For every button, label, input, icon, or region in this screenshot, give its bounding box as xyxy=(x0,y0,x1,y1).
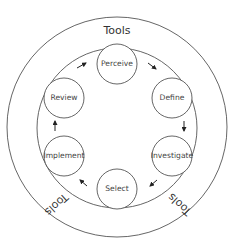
node-label: Review xyxy=(50,93,77,102)
node-select: Select xyxy=(97,169,137,209)
node-label: Define xyxy=(160,93,185,102)
tools-label: Tools xyxy=(42,190,72,219)
cycle-diagram: ToolsToolsTools PerceiveDefineInvestigat… xyxy=(0,0,236,250)
arrow-review-to-perceive-icon xyxy=(77,63,86,68)
node-label: Implement xyxy=(43,151,84,160)
node-define: Define xyxy=(152,78,192,118)
node-review: Review xyxy=(44,78,84,118)
node-label: Investigate xyxy=(151,151,194,160)
tools-label: Tools xyxy=(102,24,130,37)
arrow-perceive-to-define-icon xyxy=(148,63,156,69)
node-perceive: Perceive xyxy=(97,44,137,84)
tools-label: Tools xyxy=(165,190,195,219)
node-label: Select xyxy=(105,184,128,193)
node-investigate: Investigate xyxy=(151,136,194,176)
node-implement: Implement xyxy=(43,136,84,176)
arrow-select-to-implement-icon xyxy=(80,180,87,186)
node-label: Perceive xyxy=(101,59,133,68)
arrow-investigate-to-select-icon xyxy=(150,180,157,186)
